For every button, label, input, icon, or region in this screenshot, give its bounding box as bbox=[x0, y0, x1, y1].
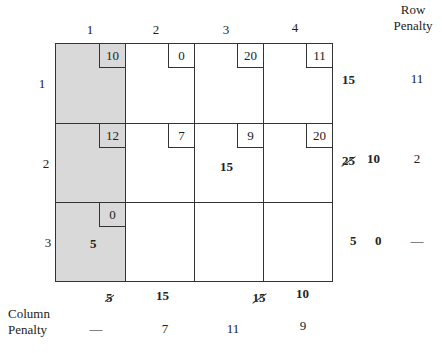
cost-box: 20 bbox=[306, 124, 332, 148]
demand-col-4: 10 bbox=[296, 286, 309, 302]
cell-r3-c3[interactable] bbox=[194, 202, 264, 282]
column-label-4: 4 bbox=[285, 20, 305, 36]
cell-r3-c4[interactable] bbox=[263, 202, 333, 282]
cost-box: 10 bbox=[99, 44, 125, 68]
cell-r1-c2[interactable]: 0 bbox=[125, 43, 195, 124]
cell-r2-c4[interactable]: 20 bbox=[263, 123, 333, 203]
column-label-1: 1 bbox=[80, 22, 100, 38]
row-label-3: 3 bbox=[40, 235, 56, 251]
allocation-value: 5 bbox=[90, 236, 97, 252]
column-penalty-title-line1: Column bbox=[8, 306, 50, 322]
column-label-2: 2 bbox=[146, 22, 166, 38]
demand-col-3-crossed: 15 bbox=[253, 290, 266, 306]
row-penalty-3: — bbox=[405, 233, 429, 249]
row-penalty-1: 11 bbox=[405, 71, 429, 87]
demand-col-2: 15 bbox=[156, 288, 169, 304]
cost-box: 7 bbox=[168, 124, 194, 148]
row-label-2: 2 bbox=[38, 156, 54, 172]
column-label-3: 3 bbox=[216, 22, 236, 38]
demand-col-1-crossed: 5 bbox=[106, 290, 113, 306]
transportation-tableau: 10 0 20 11 12 7 9 15 20 0 5 bbox=[55, 43, 333, 282]
column-penalty-4: 9 bbox=[293, 318, 313, 334]
row-penalty-2: 2 bbox=[405, 151, 429, 167]
cell-r3-c1[interactable]: 0 5 bbox=[55, 202, 126, 282]
supply-row-3-updated: 0 bbox=[375, 233, 382, 249]
cell-r1-c1[interactable]: 10 bbox=[55, 43, 126, 124]
cost-box: 9 bbox=[237, 124, 263, 148]
cell-r2-c2[interactable]: 7 bbox=[125, 123, 195, 203]
cost-box: 12 bbox=[99, 124, 125, 148]
supply-row-1: 15 bbox=[342, 72, 355, 88]
row-label-1: 1 bbox=[34, 76, 50, 92]
row-penalty-title: Row Penalty bbox=[385, 2, 441, 34]
row-penalty-title-line2: Penalty bbox=[385, 18, 441, 34]
column-penalty-3: 11 bbox=[223, 321, 243, 337]
column-penalty-2: 7 bbox=[155, 321, 175, 337]
row-penalty-title-line1: Row bbox=[385, 2, 441, 18]
cost-box: 11 bbox=[306, 44, 332, 68]
cell-r1-c3[interactable]: 20 bbox=[194, 43, 264, 124]
supply-row-2-crossed: 25 bbox=[342, 153, 355, 169]
column-penalty-title-line2: Penalty bbox=[8, 322, 50, 338]
allocation-value: 15 bbox=[220, 159, 233, 175]
supply-row-2-updated: 10 bbox=[367, 151, 380, 167]
cell-r1-c4[interactable]: 11 bbox=[263, 43, 333, 124]
column-penalty-1: — bbox=[86, 321, 106, 337]
column-penalty-title: Column Penalty bbox=[8, 306, 50, 338]
cell-r3-c2[interactable] bbox=[125, 202, 195, 282]
supply-row-3: 5 bbox=[350, 233, 357, 249]
cost-box: 0 bbox=[168, 44, 194, 68]
cost-box: 20 bbox=[237, 44, 263, 68]
cell-r2-c3[interactable]: 9 15 bbox=[194, 123, 264, 203]
cell-r2-c1[interactable]: 12 bbox=[55, 123, 126, 203]
cost-box: 0 bbox=[99, 203, 125, 227]
